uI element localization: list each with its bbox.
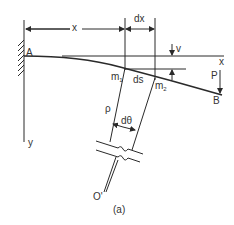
label-dx: dx — [134, 14, 145, 24]
radius-line-to-O-2 — [106, 160, 118, 192]
label-v: v — [176, 44, 181, 54]
label-dtheta: dθ — [121, 116, 132, 126]
m1-subscript: 1 — [119, 77, 122, 83]
figure-caption: (a) — [113, 205, 125, 215]
label-x-axis: x — [219, 57, 224, 67]
radius-line-to-O-1 — [104, 157, 116, 192]
break-marks — [96, 141, 143, 162]
label-y-axis: y — [28, 138, 33, 148]
fixed-support-wall — [18, 20, 24, 142]
radius-line-m2 — [132, 78, 155, 150]
label-ds: ds — [133, 75, 144, 85]
label-rho: ρ — [105, 104, 111, 114]
label-O: O' — [93, 192, 103, 202]
label-A: A — [26, 48, 33, 58]
m2-subscript: 2 — [163, 86, 166, 92]
label-B: B — [213, 96, 220, 106]
label-P: P — [211, 71, 218, 81]
label-m2: m2 — [155, 81, 167, 94]
label-x-dimension: x — [72, 23, 77, 33]
cantilever-beam-diagram — [0, 0, 234, 225]
label-m1: m1 — [111, 72, 123, 85]
